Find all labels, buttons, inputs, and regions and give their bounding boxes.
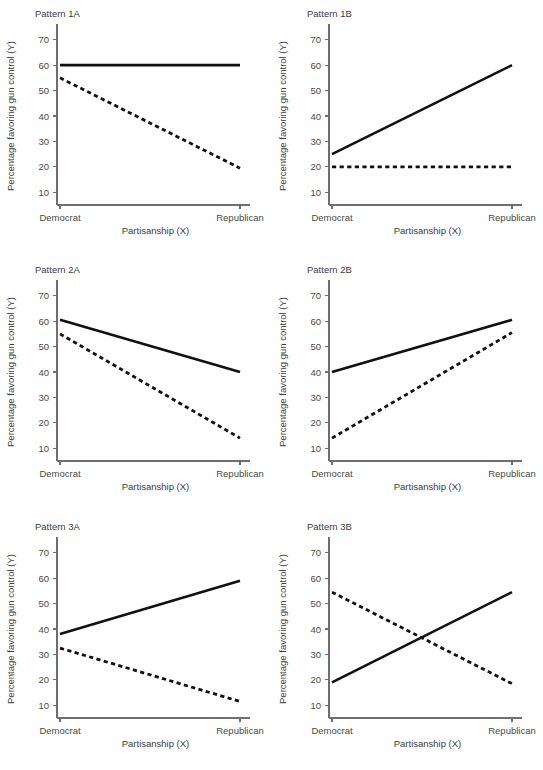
figure-panel-grid: Pattern 1A10203040506070DemocratRepublic… xyxy=(0,0,543,770)
y-axis-tick-label: 70 xyxy=(310,547,321,558)
y-axis-title: Percentage favoring gun control (Y) xyxy=(277,41,288,191)
panel-title: Pattern 2A xyxy=(35,264,81,275)
y-axis-tick-label: 60 xyxy=(38,316,49,327)
y-axis-tick-label: 30 xyxy=(310,649,321,660)
y-axis-title: Percentage favoring gun control (Y) xyxy=(5,554,16,704)
y-axis-tick-label: 10 xyxy=(38,700,49,711)
y-axis-tick-label: 10 xyxy=(310,443,321,454)
x-axis-title: Partisanship (X) xyxy=(394,738,462,749)
y-axis-tick-label: 50 xyxy=(310,598,321,609)
y-axis-tick-label: 10 xyxy=(38,187,49,198)
y-axis-tick-label: 60 xyxy=(310,316,321,327)
chart-panel: Pattern 3A10203040506070DemocratRepublic… xyxy=(0,513,271,770)
chart-panel: Pattern 2A10203040506070DemocratRepublic… xyxy=(0,256,271,513)
y-axis-tick-label: 30 xyxy=(38,136,49,147)
y-axis-title: Percentage favoring gun control (Y) xyxy=(277,554,288,704)
y-axis-tick-label: 70 xyxy=(38,290,49,301)
series-line-dashed xyxy=(60,648,240,701)
panel-title: Pattern 1B xyxy=(307,8,352,19)
y-axis-tick-label: 50 xyxy=(310,85,321,96)
y-axis-tick-label: 10 xyxy=(310,187,321,198)
y-axis-tick-label: 40 xyxy=(38,624,49,635)
x-axis-tick-label: Democrat xyxy=(311,725,353,736)
panel-title: Pattern 3A xyxy=(35,521,81,532)
series-line-solid xyxy=(60,320,240,372)
y-axis-tick-label: 60 xyxy=(38,60,49,71)
y-axis-tick-label: 30 xyxy=(38,649,49,660)
series-line-dashed xyxy=(332,333,512,439)
y-axis-tick-label: 70 xyxy=(310,290,321,301)
x-axis-tick-label: Republican xyxy=(216,725,264,736)
y-axis-tick-label: 20 xyxy=(38,674,49,685)
y-axis-tick-label: 20 xyxy=(38,417,49,428)
y-axis-tick-label: 60 xyxy=(310,573,321,584)
y-axis-tick-label: 40 xyxy=(310,624,321,635)
x-axis-title: Partisanship (X) xyxy=(122,481,190,492)
series-line-solid xyxy=(332,65,512,154)
y-axis-tick-label: 60 xyxy=(38,573,49,584)
y-axis-tick-label: 50 xyxy=(38,85,49,96)
series-line-dashed xyxy=(60,78,240,168)
x-axis-title: Partisanship (X) xyxy=(394,225,462,236)
x-axis-tick-label: Democrat xyxy=(39,212,81,223)
y-axis-tick-label: 60 xyxy=(310,60,321,71)
panel-title: Pattern 2B xyxy=(307,264,352,275)
y-axis-tick-label: 70 xyxy=(38,547,49,558)
y-axis-tick-label: 20 xyxy=(310,161,321,172)
x-axis-tick-label: Republican xyxy=(488,468,536,479)
y-axis-tick-label: 10 xyxy=(310,700,321,711)
y-axis-tick-label: 50 xyxy=(310,341,321,352)
x-axis-title: Partisanship (X) xyxy=(122,738,190,749)
y-axis-tick-label: 20 xyxy=(310,674,321,685)
x-axis-tick-label: Democrat xyxy=(311,468,353,479)
x-axis-tick-label: Republican xyxy=(488,212,536,223)
series-line-solid xyxy=(332,320,512,372)
y-axis-tick-label: 40 xyxy=(310,111,321,122)
y-axis-tick-label: 70 xyxy=(38,34,49,45)
y-axis-tick-label: 20 xyxy=(310,417,321,428)
y-axis-tick-label: 50 xyxy=(38,341,49,352)
y-axis-tick-label: 40 xyxy=(310,367,321,378)
x-axis-title: Partisanship (X) xyxy=(394,481,462,492)
x-axis-tick-label: Republican xyxy=(216,212,264,223)
series-line-solid xyxy=(60,581,240,634)
x-axis-tick-label: Republican xyxy=(488,725,536,736)
x-axis-tick-label: Democrat xyxy=(39,725,81,736)
series-line-dashed xyxy=(60,334,240,438)
y-axis-tick-label: 50 xyxy=(38,598,49,609)
y-axis-title: Percentage favoring gun control (Y) xyxy=(5,297,16,447)
panel-title: Pattern 1A xyxy=(35,8,81,19)
y-axis-tick-label: 10 xyxy=(38,443,49,454)
x-axis-tick-label: Democrat xyxy=(311,212,353,223)
y-axis-tick-label: 40 xyxy=(38,367,49,378)
chart-panel: Pattern 3B10203040506070DemocratRepublic… xyxy=(272,513,543,770)
y-axis-tick-label: 30 xyxy=(310,392,321,403)
y-axis-tick-label: 30 xyxy=(310,136,321,147)
y-axis-tick-label: 40 xyxy=(38,111,49,122)
x-axis-tick-label: Democrat xyxy=(39,468,81,479)
chart-panel: Pattern 1A10203040506070DemocratRepublic… xyxy=(0,0,271,257)
x-axis-tick-label: Republican xyxy=(216,468,264,479)
y-axis-title: Percentage favoring gun control (Y) xyxy=(277,297,288,447)
chart-panel: Pattern 1B10203040506070DemocratRepublic… xyxy=(272,0,543,257)
chart-panel: Pattern 2B10203040506070DemocratRepublic… xyxy=(272,256,543,513)
y-axis-title: Percentage favoring gun control (Y) xyxy=(5,41,16,191)
x-axis-title: Partisanship (X) xyxy=(122,225,190,236)
y-axis-tick-label: 30 xyxy=(38,392,49,403)
y-axis-tick-label: 70 xyxy=(310,34,321,45)
panel-title: Pattern 3B xyxy=(307,521,352,532)
y-axis-tick-label: 20 xyxy=(38,161,49,172)
